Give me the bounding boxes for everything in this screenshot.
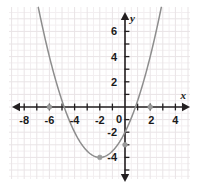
origin-label: 0 xyxy=(116,114,122,125)
coordinate-plane-svg xyxy=(0,0,199,194)
x-axis-label: x xyxy=(181,90,187,101)
x-tick-label--6: -6 xyxy=(45,115,55,126)
y-axis-label: y xyxy=(130,13,135,24)
y-tick-label-6: 6 xyxy=(111,26,117,37)
x-tick-label--4: -4 xyxy=(70,115,80,126)
x-tick-label-4: 4 xyxy=(172,115,178,126)
graph-figure: -8 -6 -4 -2 2 4 0 6 4 2 -2 -4 x y xyxy=(0,0,199,194)
y-tick-label-2: 2 xyxy=(111,76,117,87)
x-tick-label-2: 2 xyxy=(148,115,154,126)
x-tick-label--8: -8 xyxy=(19,115,29,126)
x-tick-label--2: -2 xyxy=(95,115,105,126)
y-tick-label--4: -4 xyxy=(107,152,117,163)
y-tick-label-4: 4 xyxy=(111,51,117,62)
y-tick-label--2: -2 xyxy=(107,127,117,138)
